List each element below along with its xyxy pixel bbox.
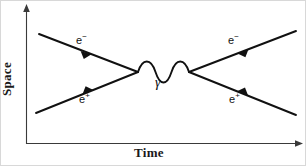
outgoing-positron-label: e+ bbox=[229, 93, 240, 105]
outgoing-positron-leg bbox=[189, 72, 296, 115]
photon-wavy-line bbox=[138, 62, 189, 83]
photon-label: γ bbox=[155, 75, 161, 91]
outgoing-electron-charge: − bbox=[234, 32, 239, 41]
incoming-electron-line bbox=[39, 34, 138, 72]
x-axis-label: Time bbox=[134, 145, 164, 161]
outgoing-electron-leg bbox=[189, 31, 296, 72]
x-axis-arrowhead bbox=[295, 140, 303, 147]
incoming-electron-label: e− bbox=[76, 34, 87, 46]
outgoing-positron-charge: + bbox=[235, 91, 240, 100]
incoming-positron-label: e+ bbox=[79, 93, 90, 105]
y-axis-arrowhead bbox=[23, 4, 30, 12]
y-axis-label: Space bbox=[0, 62, 15, 96]
photon-propagator bbox=[138, 62, 189, 83]
outgoing-electron-label: e− bbox=[228, 34, 239, 46]
incoming-positron-charge: + bbox=[85, 91, 90, 100]
incoming-electron-charge: − bbox=[82, 32, 87, 41]
diagram-canvas bbox=[1, 1, 306, 166]
feynman-diagram-figure: Space Time e− e+ e− e+ γ bbox=[0, 0, 306, 166]
incoming-electron-leg bbox=[39, 34, 138, 72]
axes-group bbox=[23, 4, 303, 147]
